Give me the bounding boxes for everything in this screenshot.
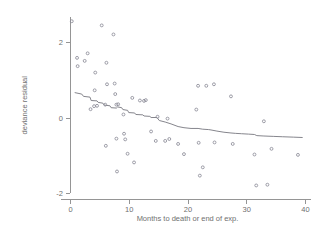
x-tick-label: 0 [68,205,72,214]
x-axis-title: Months to death or end of exp. [137,214,239,223]
x-tick-label: 20 [184,205,192,214]
figure-container: 20-2010203040Months to death or end of e… [0,0,328,229]
y-tick-label: 0 [59,114,63,123]
x-tick-label: 10 [125,205,133,214]
y-tick-label: 2 [59,38,63,47]
x-tick-label: 40 [301,205,309,214]
y-tick-label: -2 [56,189,63,198]
scatter-plot: 20-2010203040Months to death or end of e… [0,0,328,229]
x-tick-label: 30 [243,205,251,214]
plot-background [0,0,328,229]
y-axis-title: deviance residual [20,76,29,135]
